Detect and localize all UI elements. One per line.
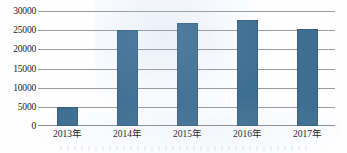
y-tick-label-20000: 20000 (0, 44, 36, 54)
y-tick-label-25000: 25000 (0, 25, 36, 35)
x-tick-label-2015: 2015年 (158, 128, 218, 141)
y-axis: 30000 25000 20000 15000 10000 5000 0 (0, 0, 36, 153)
y-tick-label-5000: 5000 (0, 102, 36, 112)
plot-area (38, 11, 335, 126)
x-axis: 2013年 2014年 2015年 2016年 2017年 (38, 128, 335, 148)
y-tick-label-30000: 30000 (0, 6, 36, 16)
y-tick-label-0: 0 (0, 121, 36, 131)
y-tick-label-10000: 10000 (0, 83, 36, 93)
bar-2017 (297, 29, 318, 126)
bar-2014 (117, 30, 138, 126)
bar-chart: 30000 25000 20000 15000 10000 5000 0 201… (0, 0, 347, 153)
x-tick-label-2017: 2017年 (278, 128, 338, 141)
bar-2015 (177, 23, 198, 127)
x-tick-label-2014: 2014年 (98, 128, 158, 141)
y-tick-label-15000: 15000 (0, 64, 36, 74)
bars-layer (38, 11, 335, 126)
bar-2013 (57, 107, 78, 126)
x-tick-label-2016: 2016年 (218, 128, 278, 141)
bar-2016 (237, 20, 258, 126)
x-tick-label-2013: 2013年 (38, 128, 98, 141)
